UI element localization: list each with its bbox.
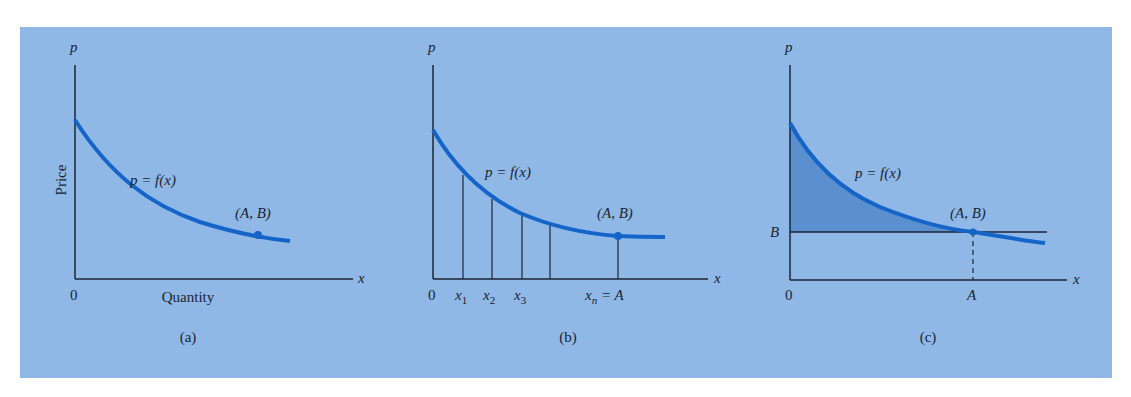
panel-c: p x 0 B A p = f(x) (A, B) (c) — [770, 39, 1080, 346]
y-axis-label: p — [784, 39, 793, 55]
x-axis-label: x — [1072, 271, 1080, 287]
point-label: (A, B) — [597, 205, 633, 222]
a-label: A — [966, 287, 977, 303]
point-label: (A, B) — [950, 205, 986, 222]
tick-x2: x2 — [482, 287, 495, 306]
panel-b: p x 0 x1 x2 x3 xn = A p = f(x) (A, B) (b… — [427, 39, 721, 346]
y-axis-label: p — [427, 39, 436, 55]
curve-label: p = f(x) — [129, 172, 176, 189]
y-title: Price — [53, 164, 69, 195]
point-ab — [254, 231, 262, 239]
panel-a: p x 0 Quantity Price p = f(x) (A, B) (a) — [53, 39, 365, 346]
x-title: Quantity — [162, 289, 215, 305]
curve-label: p = f(x) — [854, 165, 901, 182]
tick-x1: x1 — [454, 287, 467, 306]
caption-c: (c) — [920, 329, 937, 346]
origin-label: 0 — [785, 287, 793, 303]
point-ab — [970, 229, 977, 236]
point-label: (A, B) — [235, 205, 271, 222]
x-axis-label: x — [357, 270, 365, 286]
caption-b: (b) — [559, 329, 577, 346]
tick-x3: x3 — [513, 287, 527, 306]
curve-label: p = f(x) — [484, 164, 531, 181]
b-label: B — [770, 224, 779, 240]
caption-a: (a) — [180, 329, 197, 346]
origin-label: 0 — [428, 287, 436, 303]
demand-curve — [75, 120, 290, 241]
figure-diagram: p x 0 Quantity Price p = f(x) (A, B) (a)… — [0, 0, 1131, 397]
tick-xn: xn = A — [584, 287, 625, 306]
point-ab — [614, 232, 622, 240]
y-axis-label: p — [69, 39, 78, 55]
x-axis-label: x — [713, 270, 721, 286]
origin-label: 0 — [70, 287, 78, 303]
